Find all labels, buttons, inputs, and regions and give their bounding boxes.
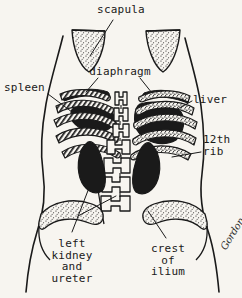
label-spleen: spleen — [4, 82, 45, 94]
label-crest-of-ilium: crest of ilium — [151, 243, 185, 278]
label-left-kidney-and-ureter: left kidney and ureter — [52, 238, 93, 284]
label-12th-rib: 12th rib — [203, 134, 230, 157]
label-diaphragm: diaphragm — [89, 66, 150, 78]
label-liver: liver — [193, 94, 227, 106]
label-scapula: scapula — [97, 4, 145, 16]
anatomy-figure: scapula diaphragm spleen liver 12th rib … — [0, 0, 242, 298]
